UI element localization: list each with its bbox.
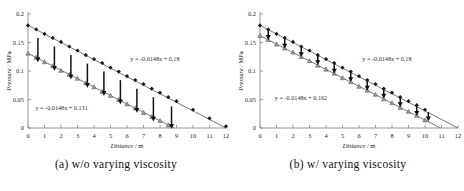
y-tick-label: 0.1: [16, 67, 24, 74]
x-tick-label: 10: [190, 132, 196, 139]
pressure-drop-arrowhead: [118, 100, 123, 105]
x-tick-label: 6: [357, 132, 360, 139]
data-point-lower: [42, 60, 46, 64]
data-point-upper: [51, 36, 55, 40]
y-tick-label: 0: [21, 124, 24, 131]
data-point-lower: [59, 68, 63, 72]
chart-b-svg: 00.050.10.150.20123456789101112Distance …: [232, 0, 464, 160]
data-point-lower: [274, 42, 278, 46]
x-tick-label: 2: [59, 132, 62, 139]
pressure-drop-arrowhead: [52, 66, 57, 71]
data-point-upper: [258, 23, 262, 27]
data-point-lower: [141, 110, 145, 114]
x-tick-label: 11: [438, 132, 444, 139]
x-tick-label: 10: [422, 132, 428, 139]
data-point-lower: [357, 84, 361, 88]
x-tick-label: 0: [26, 132, 29, 139]
data-point-lower: [258, 33, 262, 37]
x-tick-label: 8: [158, 132, 161, 139]
pressure-drop-arrowhead: [151, 117, 156, 122]
y-tick-label: 0.05: [13, 96, 24, 103]
data-point-lower: [26, 51, 30, 55]
data-point-lower: [92, 85, 96, 89]
x-tick-label: 7: [374, 132, 378, 139]
data-point-upper: [274, 32, 278, 36]
data-point-upper: [406, 99, 410, 103]
plot-area-a: 00.050.10.150.20123456789101112Distance …: [0, 0, 232, 160]
pressure-drop-arrowhead: [299, 52, 304, 57]
x-tick-label: 4: [324, 132, 328, 139]
data-point-lower: [340, 76, 344, 80]
data-point-lower: [125, 102, 129, 106]
x-tick-label: 12: [455, 132, 461, 139]
y-tick-label: 0.15: [13, 39, 24, 46]
equation-upper: y = -0.0148x + 0.18: [130, 55, 179, 62]
x-tick-label: 3: [76, 132, 79, 139]
data-point-lower: [406, 109, 410, 113]
panel-a-caption: (a) w/o varying viscosity: [0, 158, 232, 170]
panel-a: 00.050.10.150.20123456789101112Distance …: [0, 0, 232, 191]
figure-two-panel: 00.050.10.150.20123456789101112Distance …: [0, 0, 464, 191]
y-tick-label: 0.2: [16, 10, 24, 17]
data-point-upper: [390, 91, 394, 95]
data-point-lower: [324, 67, 328, 71]
data-point-upper: [26, 23, 30, 27]
y-tick-label: 0.2: [248, 10, 256, 17]
pressure-drop-arrowhead: [68, 74, 73, 79]
y-tick-label: 0.05: [245, 96, 256, 103]
x-tick-label: 4: [92, 132, 96, 139]
y-tick-label: 0: [253, 124, 256, 131]
y-axis-title: Pressure / MPa: [237, 51, 244, 91]
equation-lower: y = -0.0148x + 0.162: [275, 94, 327, 101]
x-tick-label: 5: [341, 132, 344, 139]
data-point-upper: [141, 82, 145, 86]
pressure-drop-arrowhead: [35, 57, 40, 62]
chart-a-svg: 00.050.10.150.20123456789101112Distance …: [0, 0, 232, 160]
chart-b-content: 00.050.10.150.20123456789101112Distance …: [237, 10, 461, 149]
x-tick-label: 9: [407, 132, 410, 139]
data-point-upper: [158, 91, 162, 95]
equation-upper: y = -0.0148x + 0.18: [362, 55, 411, 62]
x-tick-label: 5: [109, 132, 112, 139]
data-point-upper: [423, 108, 427, 112]
data-point-upper: [67, 44, 71, 48]
x-tick-label: 3: [308, 132, 311, 139]
data-point-upper: [84, 53, 88, 57]
x-tick-label: 7: [142, 132, 146, 139]
y-axis-title: Pressure / MPa: [5, 51, 12, 91]
pressure-drop-arrowhead: [134, 108, 139, 113]
x-tick-label: 1: [275, 132, 278, 139]
x-tick-label: 1: [43, 132, 46, 139]
chart-a-content: 00.050.10.150.20123456789101112Distance …: [5, 10, 229, 149]
data-point-lower: [108, 93, 112, 97]
x-tick-label: 2: [291, 132, 294, 139]
data-point-upper: [174, 99, 178, 103]
data-point-upper: [42, 32, 46, 36]
equation-lower: y = -0.0148x + 0.131: [35, 104, 87, 111]
data-point-upper: [373, 82, 377, 86]
pressure-drop-arrowhead: [85, 83, 90, 88]
x-axis-title: Distance / m: [110, 142, 144, 149]
data-point-upper: [34, 27, 38, 31]
y-tick-label: 0.1: [248, 67, 256, 74]
data-point-upper: [191, 108, 195, 112]
x-tick-label: 6: [125, 132, 128, 139]
x-tick-label: 12: [223, 132, 229, 139]
data-point-upper: [207, 116, 211, 120]
x-axis-title: Distance / m: [342, 142, 376, 149]
y-tick-label: 0.15: [245, 39, 256, 46]
panel-b: 00.050.10.150.20123456789101112Distance …: [232, 0, 464, 191]
plot-area-b: 00.050.10.150.20123456789101112Distance …: [232, 0, 464, 160]
x-tick-label: 9: [175, 132, 178, 139]
x-tick-label: 8: [390, 132, 393, 139]
x-tick-label: 11: [206, 132, 212, 139]
data-point-lower: [423, 118, 427, 122]
x-tick-label: 0: [258, 132, 261, 139]
panel-b-caption: (b) w/ varying viscosity: [232, 158, 464, 170]
